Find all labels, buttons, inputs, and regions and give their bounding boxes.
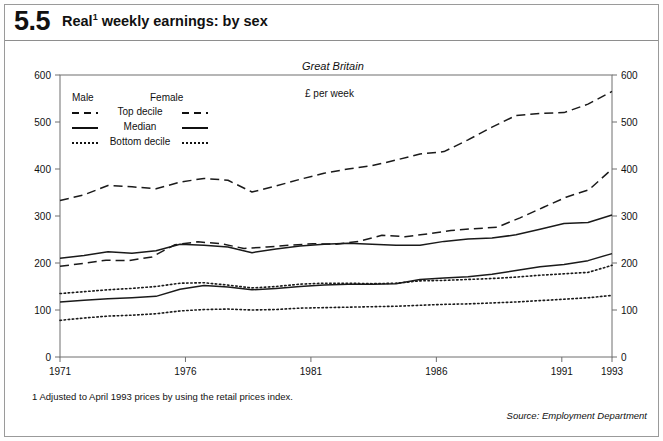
y-axis-label-left-100: 100 xyxy=(34,305,51,316)
line-chart: 0010010020020030030040040050050060060019… xyxy=(0,0,663,441)
source-note: Source: Employment Department xyxy=(507,410,647,421)
series-line-male-bottom-decile xyxy=(60,265,612,293)
y-axis-label-right-500: 500 xyxy=(621,117,638,128)
x-axis-label-1971: 1971 xyxy=(49,366,72,377)
series-line-female-bottom-decile xyxy=(60,295,612,320)
y-axis-label-left-300: 300 xyxy=(34,211,51,222)
y-axis-label-left-0: 0 xyxy=(45,352,51,363)
y-axis-label-right-200: 200 xyxy=(621,258,638,269)
x-axis-label-1976: 1976 xyxy=(174,366,197,377)
y-axis-label-right-100: 100 xyxy=(621,305,638,316)
plot-area: 0010010020020030030040040050050060060019… xyxy=(0,0,663,441)
footnote: 1 Adjusted to April 1993 prices by using… xyxy=(32,391,293,402)
x-axis-label-1991: 1991 xyxy=(551,366,574,377)
y-axis-label-left-600: 600 xyxy=(34,70,51,81)
y-axis-label-left-200: 200 xyxy=(34,258,51,269)
figure-page: 5.5 Real1 weekly earnings: by sex Great … xyxy=(0,0,663,441)
y-axis-label-right-0: 0 xyxy=(621,352,627,363)
y-axis-label-right-400: 400 xyxy=(621,164,638,175)
y-axis-label-right-600: 600 xyxy=(621,70,638,81)
series-line-female-median xyxy=(60,254,612,302)
x-axis-label-1986: 1986 xyxy=(425,366,448,377)
x-axis-label-1981: 1981 xyxy=(300,366,323,377)
y-axis-label-left-500: 500 xyxy=(34,117,51,128)
series-line-male-top-decile xyxy=(60,91,612,200)
y-axis-label-right-300: 300 xyxy=(621,211,638,222)
y-axis-label-left-400: 400 xyxy=(34,164,51,175)
x-axis-label-1993: 1993 xyxy=(601,366,624,377)
series-line-male-median xyxy=(60,215,612,258)
